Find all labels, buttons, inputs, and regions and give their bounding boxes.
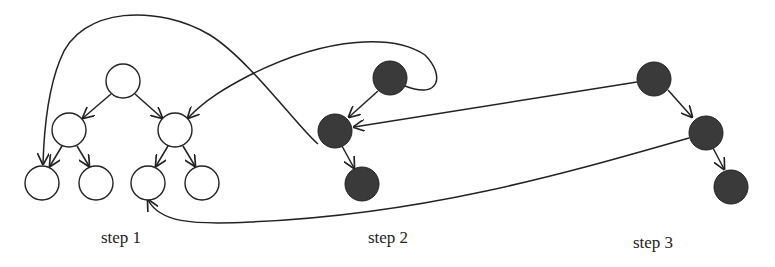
step3-nodes	[637, 62, 748, 204]
diagram-canvas: step 1 step 2 step 3	[0, 0, 775, 267]
node-root	[106, 64, 140, 98]
loop-s2-top-to-tree-right	[250, 42, 437, 90]
edge-s3-mid-bottom	[713, 148, 724, 169]
edge-right-leaf4	[183, 146, 195, 166]
label-step1: step 1	[101, 228, 141, 247]
step1-tree	[25, 64, 219, 200]
node-s2-mid	[318, 114, 352, 148]
node-right	[158, 113, 192, 147]
label-step2: step 2	[368, 228, 408, 247]
node-s2-bottom	[345, 167, 379, 201]
edge-s2-top-mid	[349, 91, 378, 117]
arc-s3-mid-to-leaf3	[148, 138, 689, 223]
node-leaf-1	[25, 166, 59, 200]
edge-right-leaf3	[156, 146, 168, 166]
edge-root-left	[83, 94, 111, 118]
node-left	[52, 113, 86, 147]
node-s3-bottom	[714, 170, 748, 204]
step2-nodes	[318, 61, 407, 201]
edge-left-leaf2	[77, 146, 89, 166]
node-s3-top	[637, 62, 671, 96]
node-leaf-4	[185, 166, 219, 200]
edge-s2-mid-bottom	[342, 146, 354, 168]
node-leaf-2	[79, 166, 113, 200]
node-s2-top	[373, 61, 407, 95]
label-step3: step 3	[633, 233, 673, 252]
node-leaf-3	[131, 166, 165, 200]
node-s3-mid	[689, 116, 723, 150]
edge-root-right	[135, 94, 162, 118]
edge-left-leaf1	[50, 146, 62, 166]
edge-s3-top-mid	[668, 90, 692, 117]
